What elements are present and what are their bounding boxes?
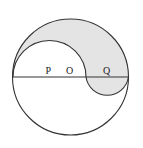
label-o: O (66, 65, 73, 76)
label-p: P (46, 65, 52, 76)
circle-diagram: P O Q (0, 0, 143, 148)
shaded-region (13, 19, 129, 95)
label-q: Q (103, 65, 111, 76)
